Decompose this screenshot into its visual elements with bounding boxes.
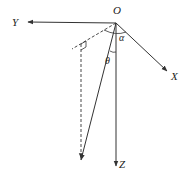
x-axis-label: X xyxy=(170,70,179,82)
x-axis xyxy=(116,23,167,71)
y-axis xyxy=(28,22,116,23)
theta-arc xyxy=(110,51,116,52)
coordinate-diagram: O Y X Z α θ xyxy=(0,0,194,180)
projection-line xyxy=(72,23,116,49)
theta-label: θ xyxy=(105,55,110,66)
right-angle-marker xyxy=(81,41,86,50)
origin-label: O xyxy=(113,4,121,16)
y-axis-label: Y xyxy=(12,16,20,28)
z-axis-label: Z xyxy=(119,158,126,170)
alpha-label: α xyxy=(119,32,125,43)
